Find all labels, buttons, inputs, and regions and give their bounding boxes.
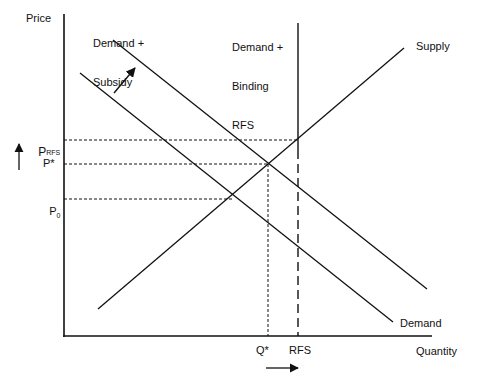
p-0-label: P0 — [43, 192, 60, 222]
demand-subsidy-label-line2: Subsidy — [93, 76, 144, 89]
demand-binding-rfs-label-line2: Binding — [232, 80, 283, 93]
rfs-quantity-label: RFS — [289, 344, 311, 357]
p-rfs-sub: RFS — [46, 149, 60, 156]
demand-binding-rfs-label-line3: RFS — [232, 119, 283, 132]
p-0-sub: 0 — [56, 212, 60, 219]
demand-subsidy-label-line1: Demand + — [93, 37, 144, 50]
demand-binding-rfs-label: Demand + Binding RFS — [232, 15, 283, 145]
q-star-label: Q* — [256, 344, 269, 357]
p-rfs-label: PRFS — [32, 133, 60, 159]
y-axis-label: Price — [26, 12, 51, 25]
demand-label: Demand — [400, 317, 442, 330]
demand-binding-rfs-label-line1: Demand + — [232, 41, 283, 54]
demand-subsidy-label: Demand + Subsidy — [93, 11, 144, 102]
p-star-label: P* — [43, 157, 55, 170]
supply-label: Supply — [416, 40, 450, 53]
x-axis-label: Quantity — [416, 345, 457, 358]
